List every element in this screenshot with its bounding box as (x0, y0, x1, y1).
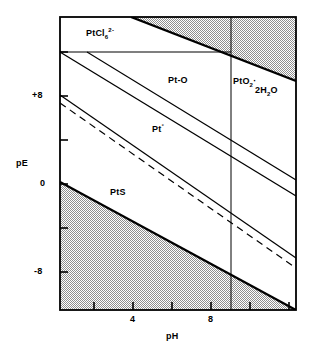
region-label-ptcl6: PtCl62- (86, 27, 114, 40)
diagram-canvas (0, 0, 311, 348)
region-label-pt-o: Pt-O (168, 75, 188, 85)
y-tick-label-zero: 0 (40, 178, 45, 188)
y-tick-label-minus8: -8 (34, 266, 42, 276)
y-axis-title: pE (16, 158, 28, 168)
region-label-pto2-2h2o-cont: 2H2O (255, 85, 278, 97)
x-axis-title: pH (166, 331, 178, 341)
x-tick-label-8: 8 (208, 314, 213, 324)
x-tick-label-4: 4 (130, 314, 135, 324)
region-label-pto2-2h2o: PtO2· (233, 76, 256, 88)
region-label-pt-metal: Pt° (152, 123, 164, 134)
region-label-pts: PtS (110, 187, 126, 197)
pourbaix-diagram-figure: +8 0 -8 pE 4 8 pH PtCl62- Pt-O PtO2· 2H2… (0, 0, 311, 348)
y-tick-label-plus8: +8 (32, 90, 43, 100)
